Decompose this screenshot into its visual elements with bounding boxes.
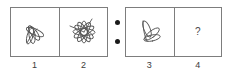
option-labels-right: 3 4	[125, 59, 222, 71]
leaf-cluster-four-petals-icon	[15, 12, 55, 52]
analogy-pair-right: ?	[125, 7, 222, 57]
analogy-pair-left	[10, 7, 108, 57]
flower-six-petals-icon	[62, 10, 106, 54]
puzzle-cell-2[interactable]	[59, 8, 107, 56]
option-label-2: 2	[59, 59, 108, 71]
puzzle-cell-1[interactable]	[11, 8, 59, 56]
question-mark-label: ?	[195, 27, 201, 37]
option-label-3: 3	[125, 59, 174, 71]
puzzle-cell-4[interactable]: ?	[174, 8, 222, 56]
option-label-1: 1	[10, 59, 59, 71]
leaf-cluster-three-petals-icon	[130, 12, 170, 52]
option-labels-left: 1 2	[10, 59, 108, 71]
separator-dot-lower	[115, 39, 120, 44]
puzzle-cell-3[interactable]	[126, 8, 174, 56]
colon-separator	[112, 7, 123, 57]
separator-dot-upper	[115, 20, 120, 25]
analogy-puzzle: ? 1 2 3 4	[0, 0, 233, 76]
option-label-4: 4	[174, 59, 223, 71]
